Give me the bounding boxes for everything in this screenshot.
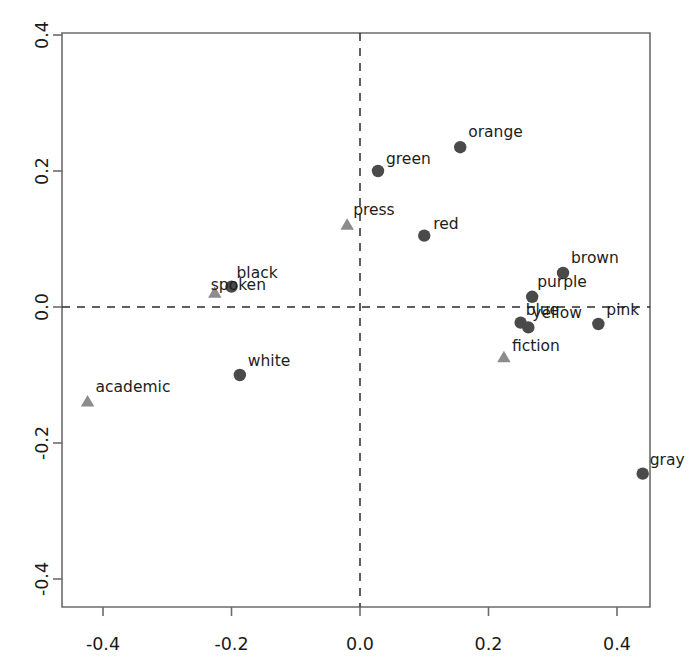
circle-marker (454, 141, 466, 153)
x-tick-label: 0.0 (346, 634, 374, 654)
x-tick-label: 0.2 (475, 634, 503, 654)
point-label: press (353, 201, 395, 219)
figure-background (0, 0, 693, 667)
circle-marker (592, 318, 604, 330)
point-label: fiction (512, 337, 560, 355)
x-tick-label: 0.4 (603, 634, 631, 654)
point-label: gray (650, 451, 685, 469)
point-label: orange (468, 123, 523, 141)
point-label: pink (606, 301, 639, 319)
scatter-plot-canvas: -0.4-0.20.00.20.4 -0.4-0.20.00.20.4 blac… (0, 0, 693, 667)
circle-marker (418, 229, 430, 241)
point-label: green (386, 150, 431, 168)
point-label: spoken (211, 276, 266, 294)
circle-marker (372, 165, 384, 177)
point-label: red (433, 215, 458, 233)
point-label: yellow (532, 304, 582, 322)
scatter-plot-figure: -0.4-0.20.00.20.4 -0.4-0.20.00.20.4 blac… (0, 0, 693, 667)
point-label: academic (96, 378, 171, 396)
circle-marker (522, 321, 534, 333)
circle-marker (637, 467, 649, 479)
y-tick-label: 0.0 (32, 293, 52, 321)
point-label: brown (571, 249, 619, 267)
x-tick-label: -0.4 (86, 634, 120, 654)
circle-marker (234, 369, 246, 381)
point-label: white (248, 352, 290, 370)
point-label: purple (537, 273, 587, 291)
x-tick-label: -0.2 (214, 634, 248, 654)
y-tick-label: -0.2 (32, 426, 52, 460)
y-tick-label: 0.4 (32, 21, 52, 49)
y-tick-label: 0.2 (32, 157, 52, 185)
y-tick-label: -0.4 (32, 562, 52, 596)
